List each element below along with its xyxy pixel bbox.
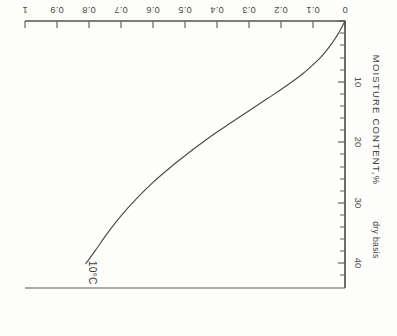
- isotherm-curve-smooth-group: [86, 21, 345, 264]
- temperature-annotation: 10°C: [87, 261, 98, 285]
- x-ticklabel-4: 0.4: [210, 5, 224, 15]
- chart-figure: 0 0.1 0.2 0.3 0.4 0.5 0.6 0.7 0.8 0.9 1 …: [0, 0, 397, 336]
- y-axis-ticks-minor: [340, 33, 345, 275]
- x-axis-ticklabels: 0 0.1 0.2 0.3 0.4 0.5 0.6 0.7 0.8 0.9 1: [22, 5, 347, 15]
- rotated-chart-container: 0 0.1 0.2 0.3 0.4 0.5 0.6 0.7 0.8 0.9 1 …: [0, 0, 397, 336]
- y-axis-title: MOISTURE CONTENT,% dry basis: [371, 55, 382, 259]
- y-ticklabel-20: 20: [353, 137, 363, 148]
- isotherm-curve-smooth: [86, 21, 345, 264]
- x-axis-ticks: [25, 21, 345, 28]
- x-ticklabel-10: 1: [22, 5, 27, 15]
- y-ticklabel-10: 10: [353, 77, 363, 88]
- y-axis: [338, 21, 345, 288]
- x-ticklabel-3: 0.3: [242, 5, 256, 15]
- y-axis-title-main: MOISTURE CONTENT,%: [371, 55, 382, 186]
- y-ticklabel-30: 30: [353, 198, 363, 209]
- y-axis-ticklabels: 10 20 30 40: [353, 77, 363, 269]
- x-ticklabel-9: 0.9: [50, 5, 64, 15]
- sorption-isotherm-plot: 0 0.1 0.2 0.3 0.4 0.5 0.6 0.7 0.8 0.9 1 …: [0, 0, 397, 336]
- plot-frame: [25, 21, 345, 288]
- y-axis-title-tail: dry basis: [371, 221, 381, 259]
- x-ticklabel-5: 0.5: [178, 5, 192, 15]
- x-ticklabel-8: 0.8: [82, 5, 96, 15]
- x-ticklabel-6: 0.6: [146, 5, 160, 15]
- annotation-group: 10°C: [87, 261, 98, 285]
- y-ticklabel-40: 40: [353, 258, 363, 269]
- x-ticklabel-2: 0.2: [274, 5, 288, 15]
- x-axis: [25, 21, 345, 28]
- x-ticklabel-1: 0.1: [306, 5, 320, 15]
- x-ticklabel-0: 0: [342, 5, 347, 15]
- x-ticklabel-7: 0.7: [114, 5, 128, 15]
